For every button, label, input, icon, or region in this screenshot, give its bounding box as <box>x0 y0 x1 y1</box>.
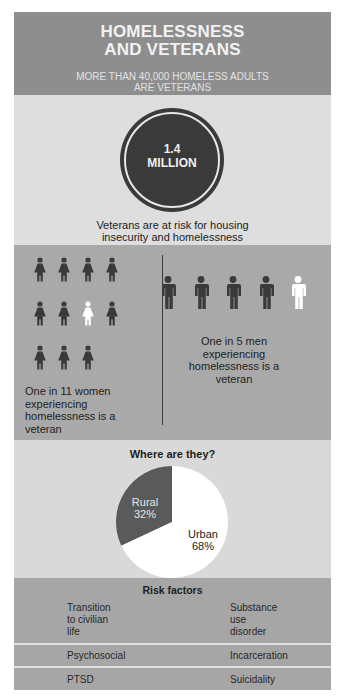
risk-text: disorder <box>230 626 277 638</box>
stat-number: 1.4 <box>120 142 224 156</box>
risk-factors-section: Risk factors Transition to civilian life… <box>14 578 331 690</box>
men-caption-line: One in 5 men <box>184 335 284 348</box>
pie-chart <box>14 440 331 578</box>
subtitle-line-2: ARE VETERANS <box>14 82 331 93</box>
woman-figure-icon <box>57 345 71 375</box>
risk-text: Transition <box>67 602 111 614</box>
risk-factor: Psychosocial <box>67 650 125 662</box>
risk-factor: Incarceration <box>230 650 288 662</box>
risk-factor: PTSD <box>67 674 94 686</box>
woman-figure-highlighted-icon <box>81 301 95 331</box>
women-caption-line: veteran <box>25 423 155 436</box>
risk-text: Substance <box>230 602 277 614</box>
infographic-card: HOMELESSNESS AND VETERANS MORE THAN 40,0… <box>14 12 331 690</box>
stat-caption-line-1: Veterans are at risk for housing <box>14 219 331 231</box>
header-section: HOMELESSNESS AND VETERANS MORE THAN 40,0… <box>14 12 331 95</box>
stat-unit: MILLION <box>120 156 224 170</box>
risk-text: to civilian <box>67 614 111 626</box>
woman-figure-icon <box>81 345 95 375</box>
men-caption-line: veteran <box>184 373 284 386</box>
gender-section: One in 11 women experiencing homelessnes… <box>14 245 331 440</box>
men-caption-line: homelessness is a <box>184 360 284 373</box>
stat-caption: Veterans are at risk for housing insecur… <box>14 219 331 243</box>
man-figure-icon <box>224 276 242 314</box>
women-caption-line: homelessness is a <box>25 410 155 423</box>
risk-factor: Substance use disorder <box>230 602 277 638</box>
women-caption-line: One in 11 women <box>25 385 155 398</box>
woman-figure-icon <box>57 301 71 331</box>
risk-text: life <box>67 626 111 638</box>
woman-figure-icon <box>57 257 71 287</box>
title-line-1: HOMELESSNESS <box>14 23 331 41</box>
man-figure-highlighted-icon <box>289 276 307 314</box>
woman-figure-icon <box>33 345 47 375</box>
women-caption: One in 11 women experiencing homelessnes… <box>25 385 155 435</box>
risk-text: use <box>230 614 277 626</box>
risk-factor: Suicidality <box>230 674 275 686</box>
stat-value: 1.4 MILLION <box>120 142 224 170</box>
title-line-2: AND VETERANS <box>14 41 331 59</box>
woman-figure-icon <box>33 257 47 287</box>
row-divider <box>14 643 331 645</box>
subtitle-line-1: MORE THAN 40,000 HOMELESS ADULTS <box>14 71 331 82</box>
risk-title: Risk factors <box>14 584 331 596</box>
women-caption-line: experiencing <box>25 398 155 411</box>
woman-figure-icon <box>105 257 119 287</box>
location-section: Where are they? Rural 32% Urban 68% <box>14 440 331 578</box>
stat-section: 1.4 MILLION Veterans are at risk for hou… <box>14 95 331 245</box>
men-caption: One in 5 men experiencing homelessness i… <box>184 335 284 385</box>
stat-caption-line-2: insecurity and homelessness <box>14 231 331 243</box>
risk-factor: Transition to civilian life <box>67 602 111 638</box>
rural-label: Rural 32% <box>125 496 165 520</box>
row-divider <box>14 666 331 668</box>
urban-label-value: 68% <box>178 540 228 552</box>
men-caption-line: experiencing <box>184 348 284 361</box>
urban-label: Urban 68% <box>178 528 228 552</box>
woman-figure-icon <box>81 257 95 287</box>
man-figure-icon <box>192 276 210 314</box>
man-figure-icon <box>257 276 275 314</box>
infographic-title: HOMELESSNESS AND VETERANS <box>14 23 331 59</box>
rural-label-value: 32% <box>125 508 165 520</box>
woman-figure-icon <box>105 301 119 331</box>
woman-figure-icon <box>33 301 47 331</box>
rural-label-name: Rural <box>125 496 165 508</box>
infographic-subtitle: MORE THAN 40,000 HOMELESS ADULTS ARE VET… <box>14 71 331 93</box>
man-figure-icon <box>159 276 177 314</box>
stat-circle: 1.4 MILLION <box>120 108 224 212</box>
urban-label-name: Urban <box>178 528 228 540</box>
